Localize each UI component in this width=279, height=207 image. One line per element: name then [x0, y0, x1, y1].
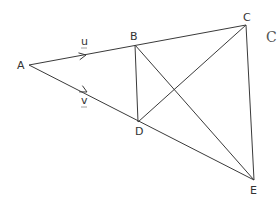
point-label-D: D	[135, 125, 143, 138]
point-label-B: B	[130, 30, 138, 43]
diagram-canvas: uvABCDEC	[0, 0, 279, 207]
segment-C-E	[246, 25, 254, 180]
segment-A-E	[29, 65, 254, 180]
point-label-C: C	[243, 11, 251, 24]
labels-group: uvABCDEC	[17, 11, 277, 197]
segments-group	[29, 25, 254, 180]
segment-D-C	[138, 25, 246, 122]
geometry-figure: uvABCDEC	[0, 0, 279, 207]
segment-B-D	[135, 45, 138, 122]
vector-arrows-group	[78, 53, 87, 92]
segment-B-E	[135, 45, 254, 180]
point-label-E: E	[250, 184, 257, 197]
vector-v-label: v	[81, 94, 88, 107]
vector-u-arrowhead-icon	[78, 53, 86, 60]
vector-u-label: u	[81, 35, 88, 48]
cropped-edge-text: C	[266, 29, 277, 45]
point-label-A: A	[17, 59, 25, 72]
